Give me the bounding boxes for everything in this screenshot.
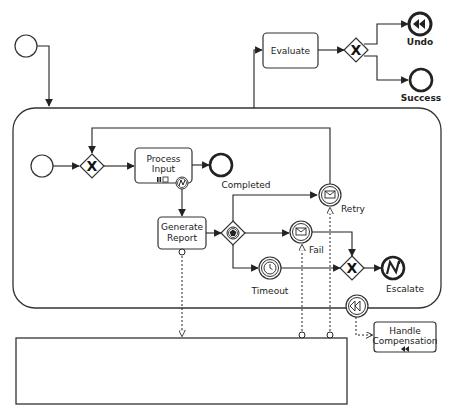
evaluate-task[interactable]: Evaluate xyxy=(263,33,318,68)
compensation-association xyxy=(356,317,372,335)
success-label: Success xyxy=(401,93,441,103)
undo-end-event[interactable]: Undo xyxy=(407,13,433,47)
handle-compensation-task[interactable]: Handle Compensation xyxy=(373,322,438,352)
handle-compensation-label-line1: Handle xyxy=(389,326,421,336)
completed-end-event[interactable]: Completed xyxy=(210,154,271,190)
timeout-timer-event[interactable]: Timeout xyxy=(251,257,289,296)
flow-start-to-subprocess xyxy=(37,46,49,106)
message-icon xyxy=(296,228,306,235)
flow-subprocess-to-evaluate xyxy=(254,50,262,108)
flow-gateway-to-retry xyxy=(233,195,317,221)
subprocess-container[interactable] xyxy=(13,108,441,308)
process-input-label-line1: Process xyxy=(146,154,180,164)
flow-gateway-to-undo xyxy=(364,24,408,44)
empty-pool[interactable] xyxy=(16,338,347,404)
retry-label: Retry xyxy=(341,204,366,214)
event-based-gateway[interactable] xyxy=(221,221,245,245)
x-icon: X xyxy=(87,158,98,174)
outer-exclusive-gateway[interactable]: X xyxy=(344,38,368,62)
message-flow-start-dot xyxy=(327,332,333,338)
fail-label: Fail xyxy=(309,245,324,255)
bpmn-diagram-canvas: Evaluate X Undo Success X Process Input xyxy=(0,0,454,413)
success-end-event[interactable]: Success xyxy=(401,69,441,103)
process-input-error-boundary[interactable] xyxy=(176,177,188,189)
retry-message-event[interactable]: Retry xyxy=(319,184,366,214)
evaluate-label: Evaluate xyxy=(271,46,311,56)
generate-report-task[interactable]: Generate Report xyxy=(158,217,206,249)
escalate-label: Escalate xyxy=(386,284,424,294)
collapsed-subprocess-icon xyxy=(163,177,168,182)
inner-start-event[interactable] xyxy=(31,155,53,177)
x-icon: X xyxy=(351,42,362,58)
flow-gateway-to-timeout xyxy=(233,245,258,268)
process-input-label-line2: Input xyxy=(152,164,176,174)
message-flow-start-dot xyxy=(179,249,185,255)
completed-label: Completed xyxy=(221,180,270,190)
generate-report-label-line1: Generate xyxy=(161,222,203,232)
message-flow-start-dot xyxy=(299,332,305,338)
message-icon xyxy=(325,191,335,198)
flow-retry-loop-back xyxy=(92,128,330,184)
timeout-label: Timeout xyxy=(251,286,289,296)
timer-icon xyxy=(264,262,276,274)
compensation-boundary-event[interactable] xyxy=(346,295,368,317)
escalate-end-event[interactable]: Escalate xyxy=(382,257,424,294)
inner-exclusive-gateway[interactable]: X xyxy=(80,154,104,178)
x-icon: X xyxy=(347,260,358,276)
fail-message-event[interactable]: Fail xyxy=(290,221,324,255)
outer-start-event[interactable] xyxy=(15,35,37,57)
merge-exclusive-gateway[interactable]: X xyxy=(340,256,364,280)
undo-label: Undo xyxy=(407,37,433,47)
generate-report-label-line2: Report xyxy=(167,233,197,243)
handle-compensation-label-line2: Compensation xyxy=(373,336,438,346)
flow-gateway-to-success xyxy=(364,56,408,80)
